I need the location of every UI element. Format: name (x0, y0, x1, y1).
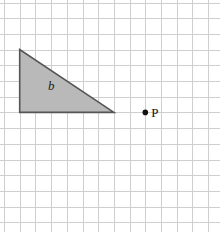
square-grid (0, 0, 220, 232)
point-p-label: P (151, 105, 158, 120)
grid-diagram: b P (0, 0, 220, 232)
point-p-dot (143, 110, 149, 116)
triangle-label-b: b (48, 78, 55, 93)
